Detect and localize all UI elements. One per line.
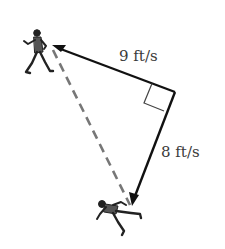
distance-dashed-line (53, 50, 130, 205)
vertical-speed-label: 8 ft/s (161, 145, 200, 160)
related-rates-diagram: 9 ft/s 8 ft/s (0, 0, 225, 249)
person-walking-icon (24, 30, 53, 73)
person-running-icon (97, 201, 141, 236)
horizontal-speed-label: 9 ft/s (119, 49, 158, 64)
